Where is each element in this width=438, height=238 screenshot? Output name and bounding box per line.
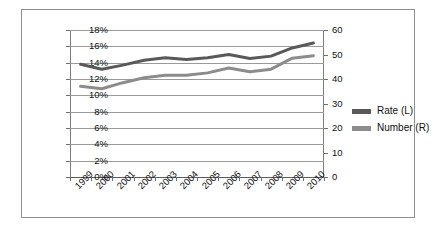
legend-swatch-icon xyxy=(352,126,371,131)
legend-item[interactable]: Rate (L) xyxy=(352,106,429,116)
right-axis-tick-label: 60 xyxy=(332,25,372,35)
right-axis-tickmark xyxy=(324,153,328,154)
right-axis-tick-label: 50 xyxy=(332,50,372,60)
legend-swatch-icon xyxy=(352,109,371,114)
right-axis-tickmark xyxy=(324,79,328,80)
legend-label: Rate (L) xyxy=(377,106,413,116)
right-axis-tick-label: 10 xyxy=(332,148,372,158)
right-axis-tickmark xyxy=(324,55,328,56)
right-axis-tickmark xyxy=(324,30,328,31)
series-line xyxy=(81,56,314,89)
right-axis-tick-label: 40 xyxy=(332,74,372,84)
legend-label: Number (R) xyxy=(377,123,429,133)
right-axis-tickmark xyxy=(324,128,328,129)
legend-item[interactable]: Number (R) xyxy=(352,123,429,133)
chart-legend: Rate (L)Number (R) xyxy=(352,106,429,140)
right-axis-tick-label: 0 xyxy=(332,172,372,182)
x-axis-tickmark xyxy=(70,177,71,181)
right-axis-tickmark xyxy=(324,104,328,105)
series-lines xyxy=(70,30,324,177)
chart-frame: 0%2%4%6%8%10%12%14%16%18% 0102030405060 … xyxy=(21,9,415,218)
